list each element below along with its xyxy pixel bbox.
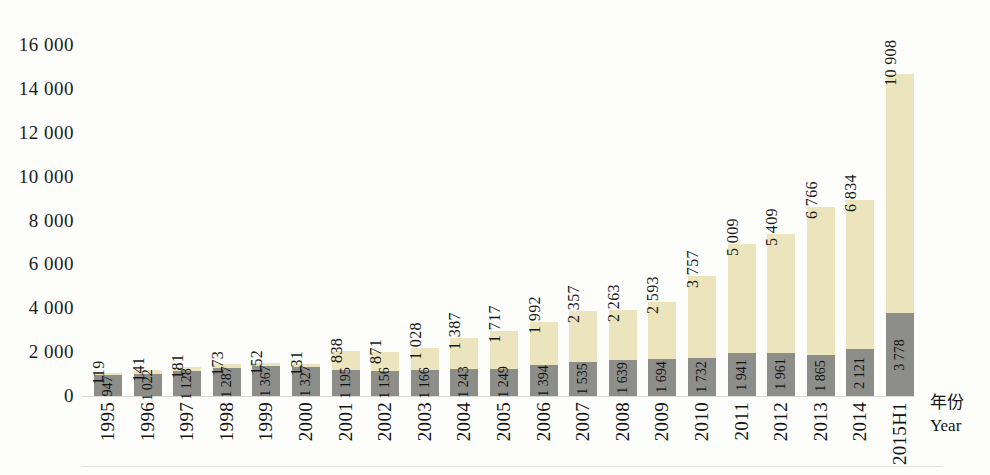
bar-value-label: 6 766 [803, 181, 821, 219]
bar-segment-lower[interactable]: 1 732 [688, 358, 716, 396]
y-tick-label: 16 000 [19, 34, 74, 56]
plot-area: 94711919951 02214119961 12818119971 2871… [82, 0, 990, 475]
bar-segment-lower[interactable]: 1 195 [332, 370, 360, 396]
stacked-bar[interactable]: 1 694 [648, 302, 676, 396]
bar-value-label: 2 263 [605, 284, 623, 322]
stacked-bar[interactable]: 3 778 [886, 74, 914, 396]
bar-segment-lower[interactable]: 1 941 [728, 353, 756, 396]
bar-group[interactable]: 3 77810 9082015H1 [880, 0, 920, 475]
x-tick-label: 1997 [176, 402, 198, 441]
y-tick-label: 14 000 [19, 78, 74, 100]
bar-value-label: 871 [367, 338, 385, 363]
bar-segment-lower[interactable]: 2 121 [846, 349, 874, 396]
bar-group[interactable]: 1 1281811997 [167, 0, 207, 475]
bar-value-label: 152 [248, 349, 266, 374]
y-tick-label: 4 000 [29, 297, 74, 319]
bar-group[interactable]: 1 2491 7172005 [484, 0, 524, 475]
x-tick-label: 2010 [691, 402, 713, 441]
bar-segment-lower[interactable]: 1 865 [807, 355, 835, 396]
stacked-bar[interactable]: 2 121 [846, 200, 874, 396]
x-tick-label: 2003 [414, 402, 436, 441]
y-tick-label: 10 000 [19, 166, 74, 188]
bar-segment-upper[interactable] [886, 74, 914, 313]
bar-group[interactable]: 9471191995 [88, 0, 128, 475]
bar-value-label: 1 387 [446, 312, 464, 350]
bar-segment-lower-label: 1 166 [417, 367, 433, 399]
x-tick-label: 2005 [493, 402, 515, 441]
bar-group[interactable]: 1 3671521999 [246, 0, 286, 475]
bar-segment-lower[interactable]: 1 535 [569, 362, 597, 396]
bar-segment-lower-label: 1 156 [377, 368, 393, 400]
x-tick-label: 2015H1 [889, 402, 911, 465]
bar-segment-lower-label: 1 195 [338, 367, 354, 399]
bar-value-label: 173 [209, 351, 227, 376]
bar-segment-lower[interactable]: 1 249 [490, 369, 518, 396]
bar-value-label: 838 [328, 338, 346, 363]
x-tick-label: 1998 [216, 402, 238, 441]
bar-segment-lower[interactable]: 1 166 [411, 370, 439, 396]
bar-group[interactable]: 1 5352 3572007 [563, 0, 603, 475]
bar-segment-lower-label: 3 778 [892, 339, 908, 371]
bar-segment-lower[interactable]: 1 156 [371, 371, 399, 396]
bar-value-label: 131 [288, 351, 306, 376]
x-tick-label: 2000 [295, 402, 317, 441]
bar-group[interactable]: 1 1661 0282003 [405, 0, 445, 475]
bar-group[interactable]: 1 9615 4092012 [761, 0, 801, 475]
bar-segment-lower[interactable]: 1 243 [450, 369, 478, 396]
stacked-bar[interactable]: 1 732 [688, 276, 716, 396]
bar-group[interactable]: 1 9415 0092011 [722, 0, 762, 475]
x-tick-label: 2002 [374, 402, 396, 441]
x-axis-title-en: Year [930, 415, 988, 438]
x-tick-label: 1995 [97, 402, 119, 441]
bar-group[interactable]: 2 1216 8342014 [840, 0, 880, 475]
bar-group[interactable]: 1 2431 3872004 [444, 0, 484, 475]
bar-segment-lower-label: 1 961 [773, 359, 789, 391]
bar-value-label: 1 028 [407, 322, 425, 360]
bar-segment-upper[interactable] [807, 207, 835, 355]
bar-value-label: 119 [90, 360, 108, 385]
bar-value-label: 1 717 [486, 305, 504, 343]
bar-group[interactable]: 1 3941 9922006 [524, 0, 564, 475]
bar-group[interactable]: 1 2871731998 [207, 0, 247, 475]
bar-group[interactable]: 1 7323 7572010 [682, 0, 722, 475]
bar-group[interactable]: 1 1958382001 [326, 0, 366, 475]
bar-value-label: 141 [130, 357, 148, 382]
bar-group[interactable]: 1 8656 7662013 [801, 0, 841, 475]
bar-segment-lower-label: 1 732 [694, 361, 710, 393]
bar-segment-lower[interactable]: 1 639 [609, 360, 637, 396]
bar-segment-lower[interactable]: 1 961 [767, 353, 795, 396]
bar-segment-upper[interactable] [846, 200, 874, 350]
x-tick-label: 2012 [770, 402, 792, 441]
stacked-bar-chart: 02 0004 0006 0008 00010 00012 00014 0001… [0, 0, 990, 475]
bar-value-label: 1 992 [526, 296, 544, 334]
stacked-bar[interactable]: 1 639 [609, 310, 637, 396]
bar-value-label: 181 [169, 354, 187, 379]
bar-value-label: 2 593 [644, 276, 662, 314]
bar-segment-lower-label: 1 394 [536, 365, 552, 397]
x-tick-label: 2001 [335, 402, 357, 441]
bar-segment-lower-label: 1 865 [813, 360, 829, 392]
y-tick-label: 12 000 [19, 122, 74, 144]
bar-segment-upper[interactable] [767, 234, 795, 353]
bar-group[interactable]: 1 3271312000 [286, 0, 326, 475]
y-tick-label: 2 000 [29, 341, 74, 363]
x-tick-label: 2006 [533, 402, 555, 441]
bar-segment-upper[interactable] [728, 244, 756, 354]
y-tick-label: 6 000 [29, 253, 74, 275]
bar-segment-lower[interactable]: 1 394 [530, 365, 558, 396]
bar-segment-lower[interactable]: 3 778 [886, 313, 914, 396]
bar-group[interactable]: 1 6942 5932009 [642, 0, 682, 475]
bar-segment-lower-label: 1 941 [734, 359, 750, 391]
bar-segment-lower[interactable]: 1 694 [648, 359, 676, 396]
stacked-bar[interactable]: 1 961 [767, 234, 795, 396]
stacked-bar[interactable]: 1 941 [728, 244, 756, 396]
y-axis: 02 0004 0006 0008 00010 00012 00014 0001… [0, 0, 82, 475]
x-axis-title-cn: 年份 [930, 392, 988, 415]
bar-group[interactable]: 1 0221411996 [128, 0, 168, 475]
stacked-bar[interactable]: 1 865 [807, 207, 835, 396]
bar-group[interactable]: 1 6392 2632008 [603, 0, 643, 475]
stacked-bar[interactable]: 1 535 [569, 311, 597, 396]
x-tick-label: 2007 [572, 402, 594, 441]
bar-value-label: 3 757 [684, 250, 702, 288]
bar-group[interactable]: 1 1568712002 [365, 0, 405, 475]
